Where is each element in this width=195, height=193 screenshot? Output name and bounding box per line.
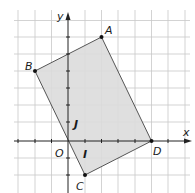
label-I: I: [83, 148, 87, 161]
point-B: [33, 69, 37, 73]
quadrilateral-ABCD: [35, 37, 152, 175]
y-axis-arrow-icon: [66, 12, 71, 20]
label-x-axis: x: [182, 126, 190, 139]
point-C: [83, 173, 87, 177]
coordinate-diagram: A B C D O I J x y: [0, 0, 195, 193]
point-D: [150, 139, 154, 143]
label-y-axis: y: [56, 10, 64, 23]
label-C: C: [76, 180, 84, 193]
point-A: [100, 35, 104, 39]
label-origin: O: [55, 147, 64, 160]
label-B: B: [25, 60, 33, 73]
label-D: D: [153, 145, 161, 158]
label-A: A: [104, 24, 113, 37]
x-axis-arrow-icon: [184, 139, 192, 144]
